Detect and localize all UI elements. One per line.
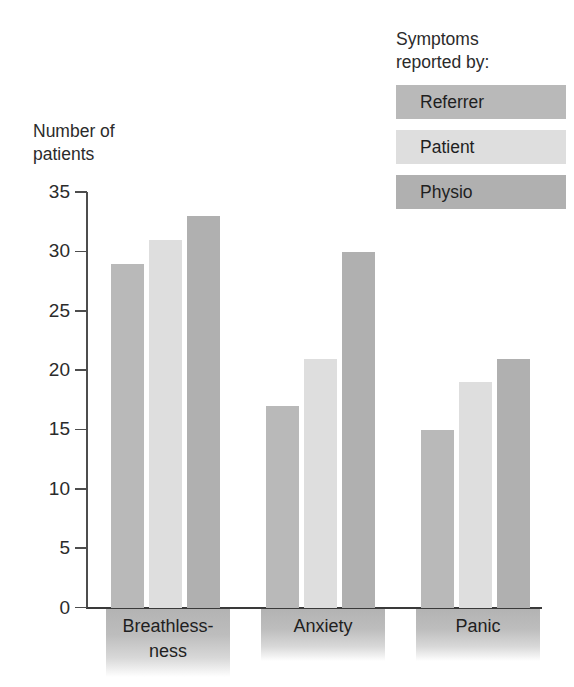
plot-area: 05101520253035 Breathless- nessAnxietyPa…	[0, 0, 574, 687]
y-tick-label: 10	[26, 478, 70, 500]
x-category-label-panic: Panic	[416, 609, 540, 661]
bar-anxiety-patient	[304, 359, 337, 608]
x-category-label-breathlessness: Breathless- ness	[106, 609, 230, 677]
y-tick-mark	[75, 310, 87, 312]
bar-anxiety-referrer	[266, 406, 299, 608]
y-tick-mark	[75, 429, 87, 431]
y-tick-label: 25	[26, 300, 70, 322]
bar-panic-physio	[497, 359, 530, 608]
y-tick-mark	[75, 607, 87, 609]
y-tick-mark	[75, 547, 87, 549]
bar-chart-figure: Symptoms reported by: Referrer Patient P…	[0, 0, 574, 687]
bar-breathlessness-patient	[149, 240, 182, 608]
y-tick-label: 20	[26, 359, 70, 381]
y-tick-label: 30	[26, 240, 70, 262]
bar-panic-referrer	[421, 430, 454, 608]
bar-panic-patient	[459, 382, 492, 608]
bar-breathlessness-referrer	[111, 264, 144, 608]
bar-breathlessness-physio	[187, 216, 220, 608]
y-tick-mark	[75, 191, 87, 193]
y-tick-mark	[75, 369, 87, 371]
x-category-label-anxiety: Anxiety	[261, 609, 385, 661]
y-tick-mark	[75, 251, 87, 253]
y-tick-label: 5	[26, 537, 70, 559]
y-tick-label: 15	[26, 418, 70, 440]
y-tick-label: 35	[26, 181, 70, 203]
y-tick-label: 0	[26, 597, 70, 619]
y-tick-mark	[75, 488, 87, 490]
bar-anxiety-physio	[342, 252, 375, 608]
